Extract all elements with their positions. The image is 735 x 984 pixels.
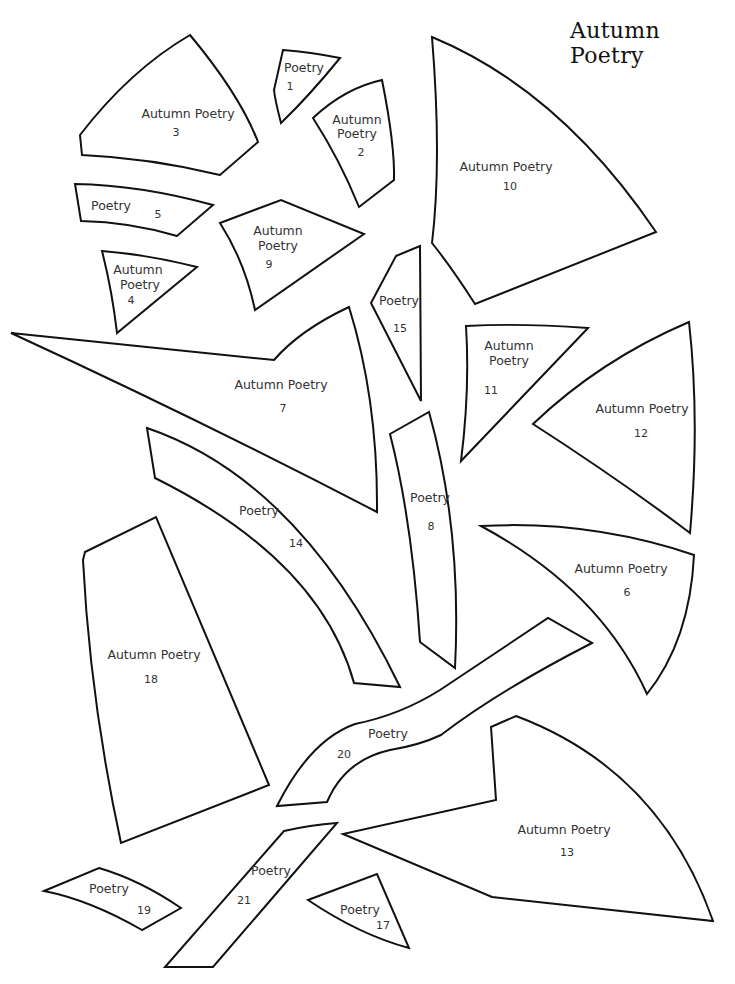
piece-15[interactable]: Poetry 15 <box>371 246 421 401</box>
piece-12-label: Autumn Poetry <box>595 401 689 416</box>
piece-9-label-line1: Autumn <box>253 223 302 238</box>
piece-18[interactable]: Autumn Poetry 18 <box>83 517 269 843</box>
piece-14-number: 14 <box>289 537 303 550</box>
piece-19[interactable]: Poetry 19 <box>44 868 181 930</box>
piece-17[interactable]: Poetry 17 <box>308 874 409 948</box>
piece-5-label: Poetry <box>91 198 131 213</box>
piece-10-number: 10 <box>503 180 517 193</box>
piece-5[interactable]: Poetry 5 <box>75 184 213 236</box>
piece-17-number: 17 <box>376 919 390 932</box>
piece-14-label: Poetry <box>239 503 279 518</box>
piece-17-label: Poetry <box>340 902 380 917</box>
piece-2-label-line2: Poetry <box>337 126 377 141</box>
piece-4-label-line2: Poetry <box>120 277 160 292</box>
piece-11-label-line1: Autumn <box>484 338 533 353</box>
piece-1-number: 1 <box>287 80 294 93</box>
piece-18-number: 18 <box>144 673 158 686</box>
piece-7-label: Autumn Poetry <box>234 377 328 392</box>
piece-11-label-line2: Poetry <box>489 353 529 368</box>
piece-12-number: 12 <box>634 427 648 440</box>
piece-11-number: 11 <box>484 384 498 397</box>
piece-13-number: 13 <box>560 846 574 859</box>
piece-21[interactable]: Poetry 21 <box>165 823 337 967</box>
piece-21-label: Poetry <box>251 863 291 878</box>
piece-2[interactable]: Autumn Poetry 2 <box>313 80 394 207</box>
piece-19-number: 19 <box>137 904 151 917</box>
piece-9-number: 9 <box>266 258 273 271</box>
piece-15-label: Poetry <box>379 293 419 308</box>
piece-19-label: Poetry <box>89 881 129 896</box>
piece-20-label: Poetry <box>368 726 408 741</box>
piece-3-number: 3 <box>173 126 180 139</box>
piece-8-label: Poetry <box>410 490 450 505</box>
piece-8[interactable]: Poetry 8 <box>390 412 456 668</box>
piece-9-label-line2: Poetry <box>258 238 298 253</box>
piece-3-label: Autumn Poetry <box>141 106 235 121</box>
piece-21-number: 21 <box>237 894 251 907</box>
piece-1-label: Poetry <box>284 60 324 75</box>
piece-4-label-line1: Autumn <box>113 262 162 277</box>
piece-18-label: Autumn Poetry <box>107 647 201 662</box>
piece-13-label: Autumn Poetry <box>517 822 611 837</box>
piece-9[interactable]: Autumn Poetry 9 <box>220 200 364 310</box>
puzzle-sheet: Autumn Poetry 3 Poetry 1 Autumn Poetry 2… <box>0 0 735 984</box>
piece-7-number: 7 <box>280 402 287 415</box>
piece-4-number: 4 <box>128 294 135 307</box>
piece-15-number: 15 <box>393 322 407 335</box>
piece-2-number: 2 <box>358 146 365 159</box>
piece-20-number: 20 <box>337 748 351 761</box>
piece-5-number: 5 <box>155 208 162 221</box>
piece-10-label: Autumn Poetry <box>459 159 553 174</box>
piece-8-number: 8 <box>428 520 435 533</box>
piece-10[interactable]: Autumn Poetry 10 <box>432 37 656 304</box>
piece-6-number: 6 <box>624 586 631 599</box>
piece-2-label-line1: Autumn <box>332 112 381 127</box>
piece-4[interactable]: Autumn Poetry 4 <box>102 251 197 333</box>
piece-3[interactable]: Autumn Poetry 3 <box>80 35 258 175</box>
piece-6-label: Autumn Poetry <box>574 561 668 576</box>
